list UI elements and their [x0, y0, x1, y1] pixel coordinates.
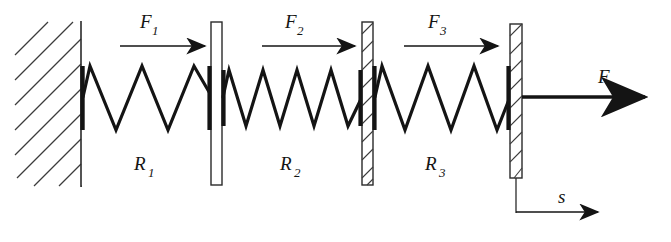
displacement-label: s [558, 186, 565, 207]
spring-system-diagram: F 1 F 2 F 3 R 1 R 2 R 3 F s [0, 0, 671, 242]
spring-coil-2 [223, 70, 362, 126]
plate-1-body [211, 22, 222, 185]
force-label-2: F [284, 11, 297, 32]
spring-label-2-subscript: 2 [294, 165, 301, 180]
fixed-support-wall [15, 21, 83, 187]
spring-coil-3 [375, 66, 510, 130]
spring-coil-1 [83, 66, 212, 130]
spring-label-1-subscript: 1 [148, 165, 155, 180]
spring-label-3-subscript: 3 [438, 165, 446, 180]
plate-2 [361, 22, 375, 185]
plate-3 [509, 24, 523, 213]
plate-1 [210, 22, 224, 185]
wall-hatching [15, 22, 82, 186]
spring-label-2: R [279, 153, 292, 174]
diagram-canvas: F 1 F 2 F 3 R 1 R 2 R 3 F s [0, 0, 671, 242]
applied-force-label: F [597, 66, 610, 87]
force-label-1: F [139, 11, 152, 32]
spring-label-1: R [133, 153, 146, 174]
force-label-1-subscript: 1 [152, 23, 159, 38]
force-label-3: F [427, 11, 440, 32]
plate-3-body [510, 24, 522, 178]
force-label-3-subscript: 3 [439, 23, 447, 38]
spring-label-3: R [424, 153, 437, 174]
force-label-2-subscript: 2 [297, 23, 304, 38]
